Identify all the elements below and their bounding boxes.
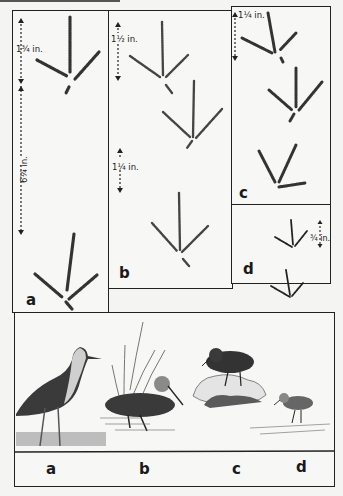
bird-label-c: c [232, 462, 241, 477]
bird-c-sandpiper [193, 348, 266, 408]
bird-label-strip: a b c d [14, 452, 335, 487]
bird-label-b: b [139, 462, 150, 477]
bird-illustrations [0, 0, 343, 496]
bird-label-a: a [46, 462, 56, 477]
bird-label-d: d [296, 460, 307, 475]
bird-d-least-sandpiper [250, 393, 330, 434]
bird-b-snipe [100, 376, 183, 431]
bird-a-yellowlegs [16, 347, 102, 446]
